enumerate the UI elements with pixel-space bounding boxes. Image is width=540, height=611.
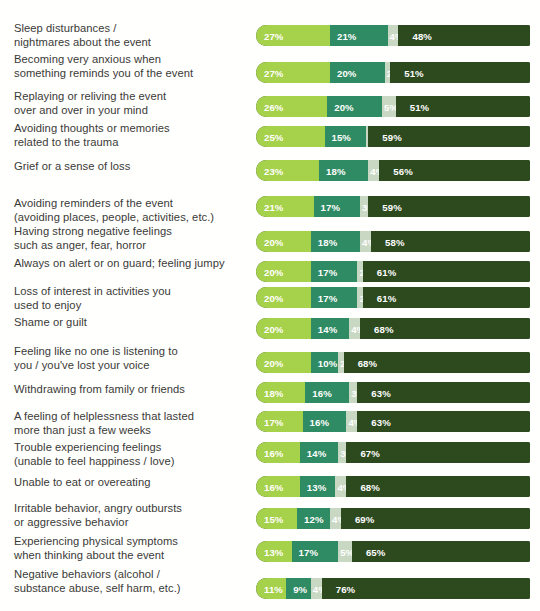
segment-value-label: 17% (318, 292, 338, 303)
segment-value-label: 16% (312, 387, 332, 398)
segment-value-label: 23% (264, 165, 284, 176)
bar-segment-3: 4% (335, 476, 346, 497)
segment-value-label: 61% (377, 292, 397, 303)
chart-rows-container: Sleep disturbances / nightmares about th… (0, 0, 540, 611)
bar-segment-2: 20% (327, 96, 382, 117)
stacked-bar: 17%16%4%63% (256, 411, 530, 432)
segment-value-label: 20% (337, 67, 357, 78)
segment-value-label: 11% (264, 583, 283, 594)
row-label: Trouble experiencing feelings (unable to… (14, 441, 250, 468)
segment-value-label: 25% (264, 131, 284, 142)
row-label: A feeling of helplessness that lasted mo… (14, 410, 250, 437)
segment-value-label: 76% (336, 583, 356, 594)
bar-segment-2: 14% (311, 318, 349, 339)
bar-segment-4: 59% (368, 126, 530, 147)
row-label: Negative behaviors (alcohol / substance … (14, 568, 250, 595)
bar-segment-2: 17% (292, 541, 339, 562)
segment-value-label: 4% (370, 165, 379, 176)
segment-value-label: 59% (382, 131, 402, 142)
segment-value-label: 21% (337, 30, 357, 41)
bar-segment-2: 12% (297, 508, 330, 529)
row-label: Shame or guilt (14, 316, 250, 330)
bar-segment-2: 17% (314, 196, 361, 217)
bar-segment-2: 17% (311, 287, 358, 308)
segment-value-label: 15% (332, 131, 352, 142)
stacked-bar: 16%14%3%67% (256, 442, 530, 463)
stacked-bar: 23%18%4%56% (256, 160, 530, 181)
bar-segment-4: 56% (379, 160, 530, 181)
segment-value-label: 20% (264, 266, 284, 277)
bar-segment-1: 21% (256, 196, 314, 217)
bar-segment-4: 58% (371, 231, 530, 252)
bar-segment-1: 17% (256, 411, 303, 432)
stacked-bar: 16%13%4%68% (256, 476, 530, 497)
segment-value-label: 51% (410, 101, 430, 112)
bar-segment-1: 20% (256, 261, 311, 282)
segment-value-label: 17% (264, 416, 284, 427)
bar-segment-3: 3% (338, 442, 346, 463)
stacked-bar: 13%17%5%65% (256, 541, 530, 562)
row-label: Feeling like no one is listening to you … (14, 345, 250, 372)
segment-value-label: 4% (351, 323, 360, 334)
segment-value-label: 4% (362, 236, 371, 247)
row-label: Becoming very anxious when something rem… (14, 53, 250, 80)
stacked-bar: 27%21%4%48% (256, 25, 530, 46)
bar-segment-3: 4% (349, 318, 360, 339)
stacked-bar: 21%17%3%59% (256, 196, 530, 217)
bar-segment-4: 76% (322, 578, 530, 599)
segment-value-label: 18% (318, 236, 338, 247)
bar-segment-2: 18% (311, 231, 360, 252)
bar-segment-1: 18% (256, 382, 305, 403)
segment-value-label: 20% (264, 292, 284, 303)
segment-value-label: 12% (304, 513, 324, 524)
bar-segment-3: 4% (388, 25, 399, 46)
bar-segment-4: 61% (363, 287, 530, 308)
bar-segment-4: 63% (357, 411, 530, 432)
segment-value-label: 14% (318, 323, 338, 334)
segment-value-label: 18% (264, 387, 284, 398)
row-label: Avoiding thoughts or memories related to… (14, 122, 250, 149)
bar-segment-2: 17% (311, 261, 358, 282)
bar-segment-2: 20% (330, 62, 385, 83)
segment-value-label: 17% (299, 546, 319, 557)
bar-segment-4: 59% (368, 196, 530, 217)
bar-segment-4: 67% (346, 442, 530, 463)
stacked-bar: 20%17%2%61% (256, 261, 530, 282)
segment-value-label: 48% (412, 30, 432, 41)
bar-segment-1: 27% (256, 25, 330, 46)
bar-segment-2: 18% (319, 160, 368, 181)
bar-segment-3: 5% (382, 96, 396, 117)
segment-value-label: 9% (293, 583, 307, 594)
row-label: Avoiding reminders of the event (avoidin… (14, 197, 250, 224)
bar-segment-4: 68% (344, 352, 530, 373)
segment-value-label: 5% (384, 101, 396, 112)
segment-value-label: 13% (307, 481, 327, 492)
bar-segment-2: 9% (286, 578, 311, 599)
row-label: Experiencing physical symptoms when thin… (14, 535, 250, 562)
stacked-bar: 26%20%5%51% (256, 96, 530, 117)
bar-segment-1: 26% (256, 96, 327, 117)
bar-segment-3: 4% (368, 160, 379, 181)
bar-segment-4: 48% (398, 25, 530, 46)
segment-value-label: 20% (334, 101, 354, 112)
row-label: Having strong negative feelings such as … (14, 225, 250, 252)
segment-value-label: 5% (340, 546, 352, 557)
segment-value-label: 15% (264, 513, 284, 524)
bar-segment-2: 21% (330, 25, 388, 46)
bar-segment-4: 65% (352, 541, 530, 562)
row-label: Loss of interest in activities you used … (14, 285, 250, 312)
segment-value-label: 68% (358, 357, 378, 368)
segment-value-label: 4% (337, 481, 346, 492)
bar-segment-4: 51% (390, 62, 530, 83)
stacked-bar: 11%9%4%76% (256, 578, 530, 599)
segment-value-label: 13% (264, 546, 284, 557)
stacked-bar: 18%16%3%63% (256, 382, 530, 403)
segment-value-label: 4% (313, 583, 322, 594)
bar-segment-3: 3% (360, 196, 368, 217)
row-label: Withdrawing from family or friends (14, 383, 250, 397)
row-label: Unable to eat or overeating (14, 476, 250, 490)
stacked-bar-chart: Sleep disturbances / nightmares about th… (0, 0, 540, 611)
segment-value-label: 20% (264, 357, 284, 368)
segment-value-label: 67% (360, 447, 380, 458)
bar-segment-1: 20% (256, 352, 311, 373)
